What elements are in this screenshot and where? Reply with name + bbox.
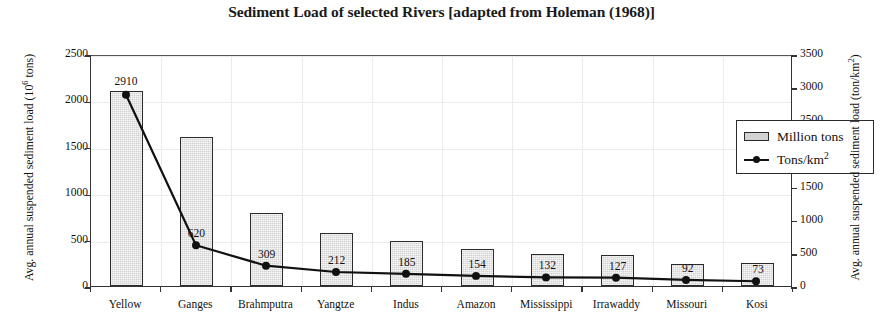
- x-axis-tickmark: [722, 287, 723, 292]
- line-marker-swatch-icon: [744, 155, 769, 165]
- data-label-kosi: 73: [752, 263, 764, 275]
- right-axis-tickmark: [791, 221, 797, 222]
- x-label-yangtze: Yangtze: [317, 298, 354, 310]
- x-axis-tickmark: [511, 287, 512, 292]
- bar-swatch-icon: [744, 132, 769, 141]
- line-marker-irrawaddy: [612, 274, 620, 282]
- x-axis-tickmark: [230, 287, 231, 292]
- x-axis-tickmark: [441, 287, 442, 292]
- x-label-mississippi: Mississippi: [520, 298, 572, 310]
- data-label-irrawaddy: 127: [609, 260, 626, 272]
- right-axis-tickmark: [791, 188, 797, 189]
- left-axis-tickmark: [85, 102, 91, 103]
- right-axis-tickmark: [791, 254, 797, 255]
- chart-figure: Sediment Load of selected Rivers [adapte…: [0, 0, 883, 335]
- line-marker-amazon: [472, 272, 480, 280]
- right-axis-tickmark: [791, 55, 797, 56]
- x-axis-tickmark: [652, 287, 653, 292]
- line-marker-kosi: [752, 277, 760, 285]
- x-label-brahmputra: Brahmputra: [238, 298, 293, 310]
- legend-label-tons-per-km2: Tons/km2: [777, 152, 829, 168]
- right-tick-label: 1500: [800, 180, 823, 192]
- right-tick-label: 500: [800, 246, 817, 258]
- right-axis-tickmark: [791, 287, 797, 288]
- left-axis-tickmark: [85, 195, 91, 196]
- line-path: [126, 95, 756, 281]
- left-axis-tickmark: [85, 148, 91, 149]
- line-markers: [122, 91, 760, 285]
- data-label-yangtze: 212: [328, 254, 345, 266]
- legend-label-million-tons: Million tons: [777, 129, 843, 145]
- data-label-amazon: 154: [468, 258, 485, 270]
- data-label-brahmputra: 309: [258, 248, 275, 260]
- left-axis-tickmark: [85, 241, 91, 242]
- line-marker-brahmputra: [262, 262, 270, 270]
- line-marker-missouri: [682, 276, 690, 284]
- line-marker-yangtze: [332, 268, 340, 276]
- x-axis-tickmark: [581, 287, 582, 292]
- left-tick-label: 1500: [65, 140, 88, 152]
- x-label-irrawaddy: Irrawaddy: [593, 298, 640, 310]
- left-axis-title: Avg. annual suspended sediment load (106…: [22, 53, 37, 283]
- plot-area: 29106203092121851541321279273 Million to…: [90, 55, 792, 287]
- legend-label-superscript: 2: [824, 149, 829, 160]
- line-marker-yellow: [122, 91, 130, 99]
- right-tick-label: 0: [800, 279, 806, 291]
- x-label-yellow: Yellow: [109, 298, 142, 310]
- data-label-missouri: 92: [682, 262, 694, 274]
- left-axis-tickmark: [85, 287, 91, 288]
- x-axis-tickmark: [301, 287, 302, 292]
- line-series-tons-per-km2: [91, 56, 791, 286]
- data-label-yellow: 2910: [115, 75, 138, 87]
- line-marker-mississippi: [542, 273, 550, 281]
- right-axis-tickmark: [791, 88, 797, 89]
- x-label-amazon: Amazon: [457, 298, 496, 310]
- line-marker-indus: [402, 270, 410, 278]
- data-label-mississippi: 132: [539, 259, 556, 271]
- left-tick-label: 2500: [65, 47, 88, 59]
- left-axis-tickmark: [85, 55, 91, 56]
- left-tick-label: 2000: [65, 93, 88, 105]
- data-label-indus: 185: [398, 256, 415, 268]
- right-tick-label: 1000: [800, 213, 823, 225]
- left-tick-label: 500: [71, 233, 88, 245]
- x-label-missouri: Missouri: [666, 298, 707, 310]
- left-tick-label: 0: [82, 279, 88, 291]
- x-axis-tickmark: [160, 287, 161, 292]
- line-marker-ganges: [192, 241, 200, 249]
- right-axis-title: Avg. annual suspended sediment load (ton…: [848, 53, 863, 283]
- x-label-ganges: Ganges: [178, 298, 213, 310]
- x-label-indus: Indus: [393, 298, 419, 310]
- chart-title: Sediment Load of selected Rivers [adapte…: [0, 3, 883, 21]
- data-label-ganges: 620: [188, 227, 205, 239]
- left-tick-label: 1000: [65, 186, 88, 198]
- x-label-kosi: Kosi: [746, 298, 768, 310]
- x-axis-tickmark: [371, 287, 372, 292]
- right-tick-label: 3000: [800, 80, 823, 92]
- right-tick-label: 3500: [800, 47, 823, 59]
